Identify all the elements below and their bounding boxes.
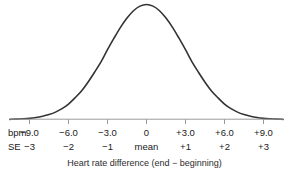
bell-curve-plot <box>0 0 289 124</box>
bpm-tick-label-3: 0 <box>144 126 149 140</box>
se-tick-label-0: −3 <box>24 140 35 154</box>
normal-distribution-figure: bpm −9.0−6.0−3.00+3.0+6.0+9.0 SE −3−2−1m… <box>0 0 289 169</box>
se-tick-label-2: −1 <box>102 140 113 154</box>
bpm-tick-label-2: −3.0 <box>98 126 117 140</box>
figure-caption: Heart rate difference (end − beginning) <box>0 157 289 169</box>
se-tick-label-6: +3 <box>258 140 269 154</box>
se-tick-label-1: −2 <box>63 140 74 154</box>
bpm-tick-label-6: +9.0 <box>254 126 273 140</box>
bpm-tick-label-1: −6.0 <box>59 126 78 140</box>
bpm-label-row: bpm −9.0−6.0−3.00+3.0+6.0+9.0 <box>0 126 289 140</box>
bell-curve-svg <box>0 0 289 124</box>
bpm-tick-label-5: +6.0 <box>215 126 234 140</box>
x-axis-svg <box>0 118 289 126</box>
se-tick-label-5: +2 <box>219 140 230 154</box>
normal-curve-line <box>10 5 283 120</box>
bpm-tick-label-0: −9.0 <box>20 126 39 140</box>
axis-tick-marks <box>30 119 264 124</box>
se-row-title: SE <box>8 140 21 154</box>
se-tick-label-4: +1 <box>180 140 191 154</box>
x-axis <box>0 118 289 126</box>
se-tick-label-3: mean <box>135 140 159 154</box>
se-label-row: SE −3−2−1mean+1+2+3 <box>0 140 289 154</box>
bpm-tick-label-4: +3.0 <box>176 126 195 140</box>
